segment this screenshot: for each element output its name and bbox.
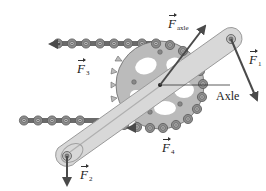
- label-f1: F1: [249, 51, 261, 68]
- crank-force-diagram: Faxle F1 F2 F3 F4 Axle: [0, 0, 266, 191]
- label-f4: F4: [162, 139, 174, 156]
- label-f-axle: Faxle: [168, 15, 189, 32]
- label-f2: F2: [80, 166, 92, 183]
- label-axle: Axle: [216, 90, 239, 102]
- label-f3: F3: [77, 60, 89, 77]
